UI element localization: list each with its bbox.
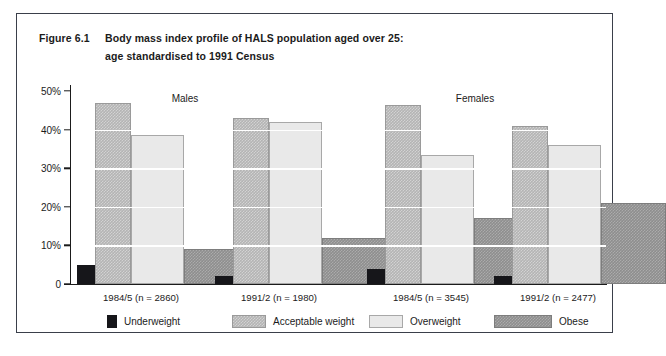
gridline [71,245,606,246]
legend-item-acceptable[interactable]: Acceptable weight [232,313,354,329]
legend-item-obese[interactable]: Obese [494,313,588,329]
bar-underweight [494,276,512,284]
bar-underweight [215,276,233,284]
y-axis-tick-label: 30% [17,163,61,174]
y-axis-tick-label: 0 [17,279,61,290]
bar-acceptable [385,105,421,284]
x-axis-category-label: 1991/2 (n = 2477) [520,292,596,303]
bar-acceptable [233,118,269,284]
gridline [71,91,606,92]
bar-overweight [269,122,322,284]
chart-legend: UnderweightAcceptable weightOverweightOb… [39,313,599,329]
y-axis-tick-mark [64,245,71,246]
y-axis-tick-mark [64,283,71,284]
legend-item-overweight[interactable]: Overweight [369,313,461,329]
y-axis-tick-mark [64,90,71,91]
legend-label-acceptable: Acceptable weight [273,316,354,327]
y-axis-tick-mark [64,167,71,168]
x-axis-category-label: 1991/2 (n = 1980) [241,292,317,303]
legend-label-underweight: Underweight [124,316,180,327]
bar-underweight [367,269,385,284]
y-axis-tick-label: 40% [17,124,61,135]
bar-overweight [421,155,474,284]
bar-overweight [131,135,184,284]
bar-chart-plot: 010%20%30%40%50%1984/5 (n = 2860)1991/2 … [17,14,614,334]
y-axis-tick-label: 50% [17,86,61,97]
panel-heading-females: Females [456,93,494,104]
bar-acceptable [512,126,548,284]
legend-label-obese: Obese [559,316,588,327]
bar-overweight [548,145,601,284]
y-axis-tick-label: 20% [17,201,61,212]
y-axis-tick-mark [64,206,71,207]
x-axis-category-label: 1984/5 (n = 2860) [103,292,179,303]
legend-swatch-acceptable-icon [232,315,266,328]
legend-item-underweight[interactable]: Underweight [107,313,180,329]
gridline [71,130,606,131]
gridline [71,207,606,208]
x-axis-category-label: 1984/5 (n = 3545) [393,292,469,303]
bar-underweight [77,265,95,284]
figure-frame: Figure 6.1 Body mass index profile of HA… [16,13,613,333]
legend-swatch-obese-icon [494,315,552,328]
panel-heading-males: Males [172,93,199,104]
y-axis-tick-label: 10% [17,240,61,251]
y-axis-tick-mark [64,129,71,130]
legend-label-overweight: Overweight [410,316,461,327]
x-axis-line [64,284,607,285]
legend-swatch-overweight-icon [369,315,403,328]
gridline [71,168,606,169]
y-axis-line [70,85,71,285]
legend-swatch-underweight-icon [107,315,117,328]
bar-obese [601,203,666,284]
